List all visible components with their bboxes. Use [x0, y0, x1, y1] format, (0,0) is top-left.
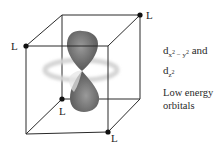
description-line-2: orbitals: [163, 99, 218, 112]
ligand-label: L: [146, 9, 153, 21]
orbital-subscript: x2 − y2: [169, 51, 189, 59]
description-line-1: Low energy: [163, 86, 218, 99]
orbital-energy-description: Low energy orbitals: [163, 86, 218, 112]
conjunction-text: and: [189, 44, 208, 56]
tetrahedral-field-cube-diagram: L L L L: [0, 0, 218, 143]
ligand-label: L: [11, 40, 18, 52]
orbital-label-dx2-y2: dx2 − y2 and: [163, 44, 208, 59]
ligand-dot: [105, 129, 110, 134]
ligand-dot: [23, 43, 28, 48]
orbital-subscript: z2: [169, 71, 175, 79]
ligand-dot: [59, 96, 64, 101]
sup-2: 2: [172, 69, 175, 75]
orbital-label-dz2: dz2: [163, 64, 175, 79]
dz2-orbital-lobes: [67, 31, 99, 112]
ligand-front-bottom-right: L: [105, 129, 118, 143]
ligand-label: L: [111, 132, 118, 143]
ligand-dot: [137, 12, 142, 17]
ligand-label: L: [59, 105, 66, 117]
